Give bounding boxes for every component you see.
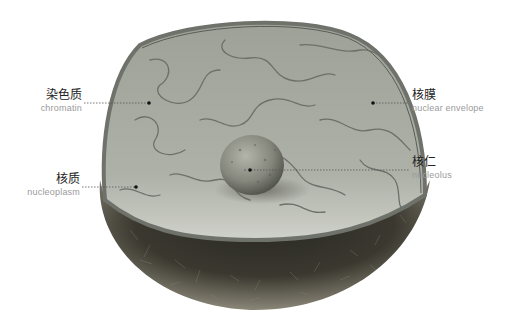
nucleoplasm-cut-face — [104, 23, 425, 240]
label-nucleoplasm-en: nucleoplasm — [14, 188, 80, 197]
label-nucleolus-en: nucleolus — [412, 171, 452, 180]
label-chromatin-zh: 染色质 — [20, 89, 82, 101]
label-nuclear-envelope-en: nuclear envelope — [412, 104, 484, 113]
label-nuclear-envelope-zh: 核膜 — [412, 89, 484, 101]
label-nuclear-envelope: 核膜 nuclear envelope — [412, 89, 484, 113]
label-nucleolus: 核仁 nucleolus — [412, 156, 452, 180]
label-chromatin-en: chromatin — [20, 104, 82, 113]
label-nucleoplasm-zh: 核质 — [14, 173, 80, 185]
label-nucleolus-zh: 核仁 — [412, 156, 452, 168]
label-nucleoplasm: 核质 nucleoplasm — [14, 173, 80, 197]
label-chromatin: 染色质 chromatin — [20, 89, 82, 113]
